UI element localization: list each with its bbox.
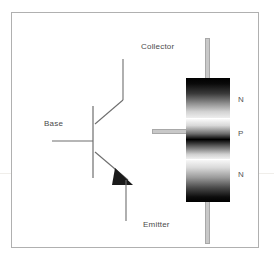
base-label: Base	[44, 119, 63, 128]
layer-n-collector	[186, 78, 230, 119]
layer-label-n-top: N	[238, 95, 244, 104]
layer-label-n-bot: N	[238, 170, 244, 179]
collector-terminal-lead	[205, 38, 210, 80]
npn-layer-stack	[186, 78, 230, 202]
layer-label-p-mid: P	[238, 129, 243, 138]
emitter-label: Emitter	[143, 220, 170, 229]
layer-n-emitter	[186, 160, 230, 202]
collector-label: Collector	[141, 42, 174, 51]
collector-diagonal	[95, 100, 123, 124]
figure-canvas: Collector Base Emitter N P N	[0, 0, 274, 268]
npn-transistor-symbol	[0, 0, 274, 268]
emitter-arrowhead	[112, 168, 133, 185]
emitter-terminal-lead	[205, 200, 210, 244]
layer-p-base	[186, 119, 230, 160]
base-terminal-lead	[152, 129, 190, 134]
